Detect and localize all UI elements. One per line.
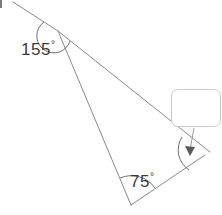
exterior-ray-line — [13, 2, 58, 31]
angle-label-155: 155° — [21, 40, 55, 58]
triangle-left-side — [58, 31, 131, 205]
diagram-canvas: 155° 75° — [0, 0, 222, 215]
angle-label-75: 75° — [130, 172, 154, 190]
angle-value-75: 75 — [130, 172, 150, 191]
answer-input-box[interactable] — [171, 89, 221, 127]
answer-box-value — [172, 90, 220, 126]
angle-arc-unknown — [178, 137, 189, 170]
degree-symbol-155: ° — [51, 39, 55, 50]
angle-value-155: 155 — [21, 40, 51, 59]
degree-symbol-75: ° — [150, 171, 154, 182]
leader-arrow-icon — [185, 146, 195, 156]
